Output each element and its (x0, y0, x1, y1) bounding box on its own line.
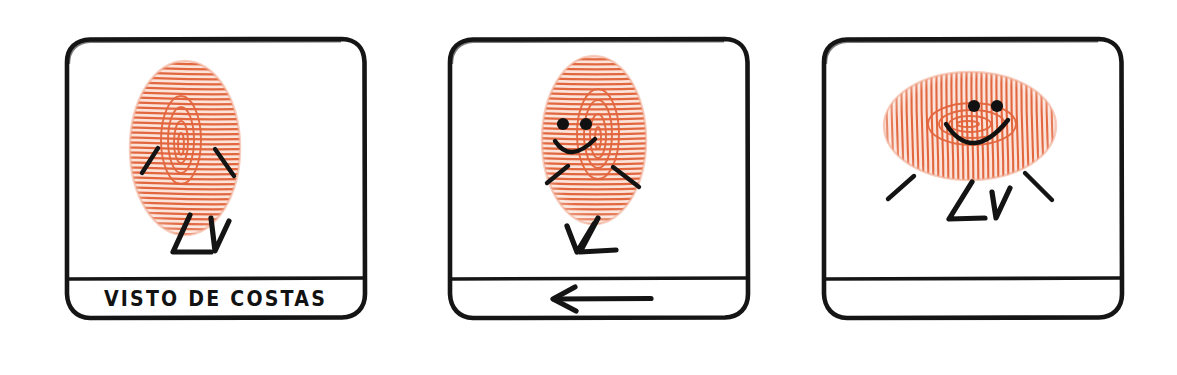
right-eye-icon (991, 100, 1003, 112)
comic-panel-2 (446, 36, 751, 322)
left-eye-icon (968, 100, 980, 112)
left-eye-icon (557, 118, 569, 130)
panel-1-caption-bar (68, 278, 364, 279)
panel-3-artwork (820, 36, 1125, 322)
panel-3-caption-bar (825, 278, 1121, 279)
comic-strip: VISTO DE COSTAS (0, 0, 1177, 375)
panel-1-artwork (63, 36, 368, 322)
comic-panel-3 (820, 36, 1125, 322)
right-eye-icon (580, 118, 592, 130)
comic-panel-1: VISTO DE COSTAS (63, 36, 368, 322)
panel-2-artwork (446, 36, 751, 322)
